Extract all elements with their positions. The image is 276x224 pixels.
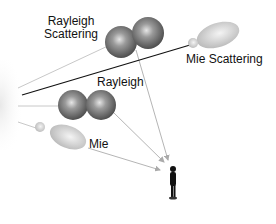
rayleigh-sphere-right [132,17,164,49]
diagram-canvas [0,0,276,224]
label-mie: Mie [89,138,108,151]
rayleigh-sphere-mid-right [86,90,116,120]
sun-haze [0,60,40,150]
scatter-ray-mie [88,148,160,170]
rayleigh-sphere-mid-left [58,90,88,120]
label-line-2: Scattering [44,28,98,41]
mie-particle-lower [35,122,45,132]
mie-lobe-large [193,17,242,53]
observer-person-icon [169,166,177,200]
mie-lobe-lower [46,120,89,155]
scattering-diagram: Rayleigh Scattering Mie Scattering Rayle… [0,0,276,224]
scatter-ray-top [136,50,168,160]
label-rayleigh: Rayleigh [97,76,144,89]
label-rayleigh-scattering: Rayleigh Scattering [44,15,98,41]
label-mie-scattering: Mie Scattering [186,53,263,66]
mie-particle [188,38,198,48]
